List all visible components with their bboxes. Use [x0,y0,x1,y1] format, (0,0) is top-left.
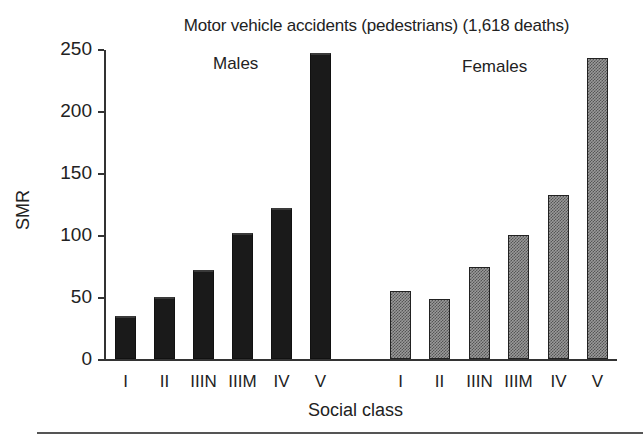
y-tick-label: 100 [4,225,92,245]
y-tick-label: 150 [4,163,92,183]
x-tick-label: II [145,372,185,392]
y-tick-label: 0 [4,349,92,369]
bar-females-iiim [508,235,529,359]
bar-females-i [390,291,411,359]
bar-males-iv [271,208,292,359]
x-axis-line [104,359,617,361]
y-tick-label: 250 [4,39,92,59]
y-tick-label: 50 [4,287,92,307]
bar-males-iiim [232,233,253,359]
x-tick-label: IV [262,372,302,392]
bar-females-v [587,58,608,359]
males-group-label: Males [213,54,258,74]
y-tick-label: 200 [4,101,92,121]
x-tick-label: IIIM [499,372,539,392]
x-tick-label: V [578,372,618,392]
x-tick-label: IV [539,372,579,392]
bar-females-ii [429,299,450,359]
x-axis-label: Social class [308,400,403,421]
x-tick-label: I [106,372,146,392]
x-tick-label: I [381,372,421,392]
bar-females-iv [548,195,569,359]
females-group-label: Females [462,57,527,77]
bar-females-iiin [469,267,490,359]
x-tick-label: V [301,372,341,392]
bar-males-i [115,316,136,359]
x-tick-label: IIIN [184,372,224,392]
bottom-separator-rule [37,432,643,434]
y-axis-label: SMR [13,190,34,230]
bar-males-ii [154,297,175,359]
bar-males-v [310,53,331,359]
bar-males-iiin [193,270,214,359]
y-axis-line [104,50,106,361]
x-tick-label: IIIM [223,372,263,392]
x-tick-label: IIIN [460,372,500,392]
x-tick-label: II [420,372,460,392]
chart-title: Motor vehicle accidents (pedestrians) (1… [0,16,643,36]
